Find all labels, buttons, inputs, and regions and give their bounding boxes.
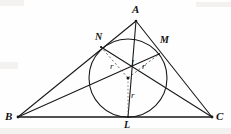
label-vertex-a: A: [132, 4, 139, 15]
side-AC: [136, 21, 212, 117]
label-tangent-point-m: M: [160, 35, 169, 45]
label-vertex-c: C: [216, 111, 223, 122]
point-A: [135, 20, 138, 23]
cevian-BM: [18, 54, 159, 117]
point-B: [17, 116, 20, 119]
label-radius-right: r: [142, 62, 146, 71]
label-incenter-i: I: [131, 59, 134, 68]
geometry-canvas: [0, 0, 231, 134]
point-M: [158, 53, 160, 55]
cevian-CN: [101, 47, 212, 117]
label-radius-bottom: r: [131, 91, 135, 100]
geometry-figure: A B C N M L I r r r: [0, 0, 231, 134]
point-N: [100, 46, 102, 48]
label-tangent-point-n: N: [95, 32, 102, 42]
point-I: [127, 77, 130, 80]
side-AB: [18, 21, 136, 117]
point-L: [127, 116, 129, 118]
cevian-AL: [128, 21, 136, 117]
label-tangent-point-l: L: [124, 120, 130, 130]
point-C: [211, 116, 214, 119]
label-vertex-b: B: [5, 111, 12, 122]
label-radius-left: r: [110, 62, 114, 71]
